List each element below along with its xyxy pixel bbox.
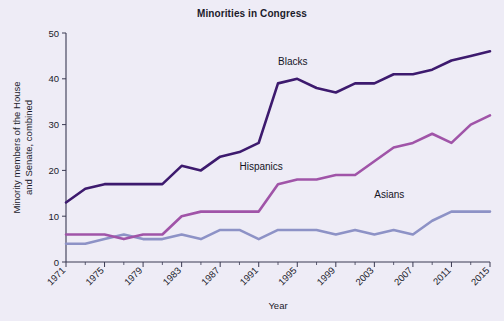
x-tick-label: 1983 xyxy=(160,265,183,288)
x-axis-title: Year xyxy=(268,300,287,311)
x-tick-label: 1979 xyxy=(122,265,145,288)
y-tick-label: 50 xyxy=(48,28,59,39)
x-tick-label: 1995 xyxy=(276,265,299,288)
x-tick-label: 2011 xyxy=(431,265,453,287)
x-tick-label: 1975 xyxy=(83,265,106,288)
x-tick-label: 2007 xyxy=(392,265,415,288)
x-tick-label: 1987 xyxy=(199,265,222,288)
x-tick-label: 1971 xyxy=(45,265,68,288)
y-axis-title-line: Minority members of the House xyxy=(11,82,22,214)
x-tick-label: 2015 xyxy=(469,265,492,288)
series-label-hispanics: Hispanics xyxy=(239,161,282,172)
y-tick-label: 10 xyxy=(48,211,59,222)
x-tick-label: 1999 xyxy=(315,265,338,288)
series-line-hispanics xyxy=(66,115,490,239)
series-line-blacks xyxy=(66,51,490,202)
x-tick-label: 2003 xyxy=(353,265,376,288)
line-chart-plot: 0102030405019711975197919831987199119951… xyxy=(0,0,504,321)
y-axis-title-line: and Senate, combined xyxy=(23,100,34,195)
y-tick-label: 40 xyxy=(48,73,59,84)
y-tick-label: 20 xyxy=(48,165,59,176)
chart-container: Minorities in Congress 01020304050197119… xyxy=(0,0,504,321)
series-label-blacks: Blacks xyxy=(278,56,307,67)
y-tick-label: 30 xyxy=(48,119,59,130)
series-label-asians: Asians xyxy=(374,189,404,200)
y-axis-title: Minority members of the Houseand Senate,… xyxy=(11,82,34,214)
x-tick-label: 1991 xyxy=(237,265,260,288)
